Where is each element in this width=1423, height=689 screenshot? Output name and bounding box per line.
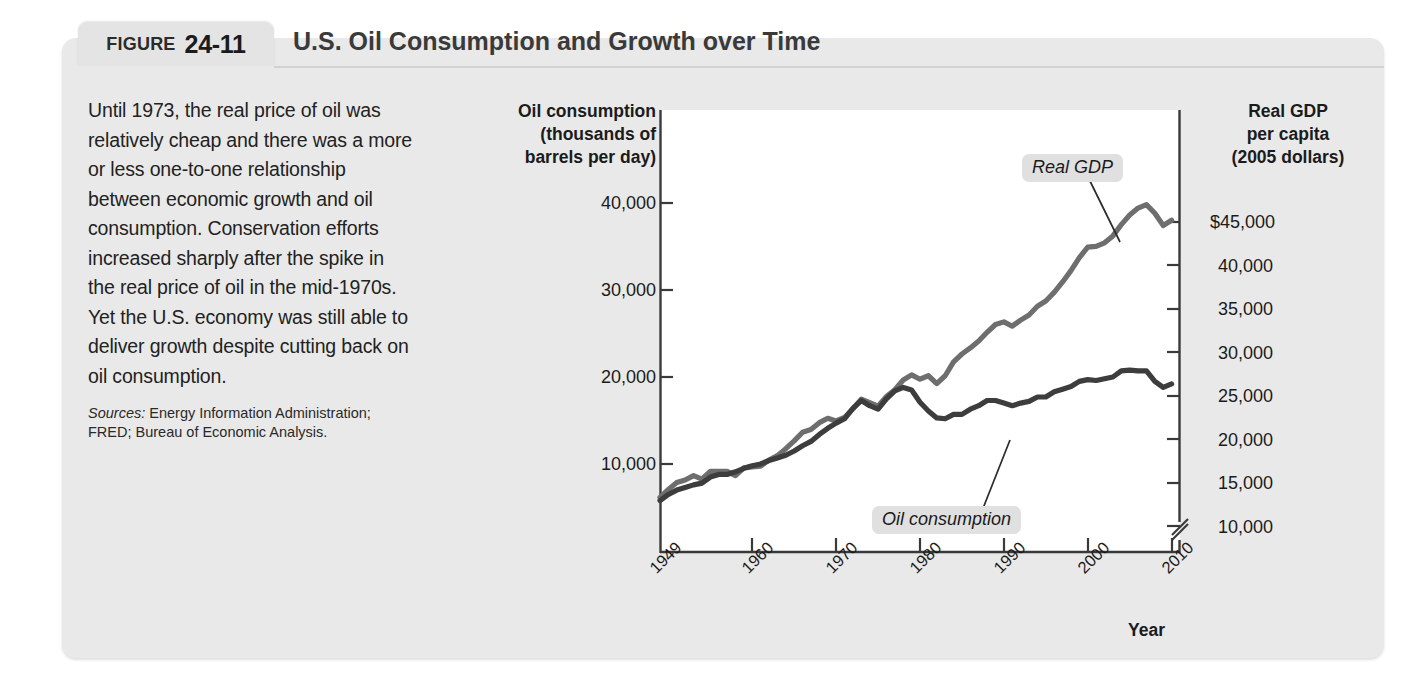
right-tick-label-20000: 20,000	[1218, 430, 1273, 451]
description-text: Until 1973, the real price of oil was re…	[88, 96, 412, 391]
left-tick-label-20000: 20,000	[536, 367, 656, 388]
description-column: Until 1973, the real price of oil was re…	[88, 96, 412, 442]
left-tick-label-30000: 30,000	[536, 280, 656, 301]
left-axis-title: Oil consumption (thousands of barrels pe…	[420, 100, 656, 169]
sources-label: Sources:	[88, 405, 145, 421]
right-axis-title-line-3: (2005 dollars)	[1196, 146, 1380, 169]
left-axis-title-line-2: (thousands of	[420, 123, 656, 146]
right-tick-label-15000: 15,000	[1218, 473, 1273, 494]
right-tick-label-25000: 25,000	[1218, 386, 1273, 407]
title-divider	[274, 66, 1384, 68]
real-gdp-callout: Real GDP	[1022, 154, 1123, 182]
right-axis-title: Real GDP per capita (2005 dollars)	[1196, 100, 1380, 169]
right-axis-title-line-2: per capita	[1196, 123, 1380, 146]
figure-tab-word: FIGURE	[106, 34, 175, 55]
figure-title: U.S. Oil Consumption and Growth over Tim…	[293, 27, 820, 56]
left-axis-title-line-1: Oil consumption	[420, 100, 656, 123]
figure-root: FIGURE 24-11 U.S. Oil Consumption and Gr…	[0, 0, 1423, 689]
oil-consumption-callout: Oil consumption	[872, 506, 1021, 534]
left-tick-label-40000: 40,000	[536, 193, 656, 214]
chart-area: Oil consumption (thousands of barrels pe…	[420, 92, 1380, 652]
sources-note: Sources: Energy Information Administrati…	[88, 404, 412, 442]
right-tick-label-45000: $45,000	[1210, 212, 1275, 233]
right-tick-label-30000: 30,000	[1218, 343, 1273, 364]
left-axis-title-line-3: barrels per day)	[420, 146, 656, 169]
x-axis-name: Year	[1128, 620, 1165, 641]
right-axis-title-line-1: Real GDP	[1196, 100, 1380, 123]
left-tick-label-10000: 10,000	[536, 454, 656, 475]
right-tick-label-10000: 10,000	[1218, 517, 1273, 538]
figure-tab-number: 24-11	[185, 30, 246, 59]
right-tick-label-35000: 35,000	[1218, 299, 1273, 320]
right-tick-label-40000: 40,000	[1218, 256, 1273, 277]
figure-number-tab: FIGURE 24-11	[78, 22, 274, 66]
